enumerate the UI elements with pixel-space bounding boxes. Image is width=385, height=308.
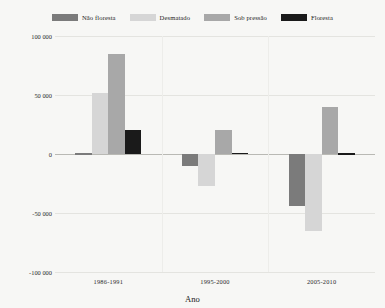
bar <box>305 154 322 231</box>
bar <box>92 93 109 154</box>
bar <box>289 154 306 206</box>
legend-item-1[interactable]: Não floresta <box>52 14 116 21</box>
bar <box>182 154 199 166</box>
bar <box>108 54 125 154</box>
bar <box>125 130 142 154</box>
gridline <box>55 36 375 37</box>
bar <box>215 130 232 154</box>
legend-item-4[interactable]: Floresta <box>281 14 333 21</box>
legend-label: Sob pressão <box>234 14 267 21</box>
y-axis-tick-label: -100 000 <box>0 269 52 276</box>
legend-label: Floresta <box>311 14 333 21</box>
legend-swatch-icon <box>281 14 307 21</box>
gridline <box>55 213 375 214</box>
legend-swatch-icon <box>204 14 230 21</box>
bar <box>232 153 249 154</box>
legend-item-3[interactable]: Sob pressão <box>204 14 267 21</box>
bar <box>75 153 92 154</box>
legend-label: Não floresta <box>82 14 116 21</box>
zero-line <box>55 154 375 155</box>
y-axis-tick-label: 0 <box>0 151 52 158</box>
bar <box>198 154 215 186</box>
bar <box>338 153 355 154</box>
x-axis-title: Ano <box>0 294 385 304</box>
gridline <box>55 272 375 273</box>
legend-item-2[interactable]: Desmatado <box>130 14 191 21</box>
chart-legend: Não florestaDesmatadoSob pressãoFloresta <box>0 14 385 21</box>
legend-label: Desmatado <box>160 14 191 21</box>
legend-swatch-icon <box>52 14 78 21</box>
vertical-gridline <box>268 36 269 272</box>
x-axis-tick-label: 2005-2010 <box>307 278 337 285</box>
bar <box>322 107 339 154</box>
x-axis-tick-label: 1995-2000 <box>200 278 230 285</box>
y-axis-tick-label: 50 000 <box>0 92 52 99</box>
vertical-gridline <box>162 36 163 272</box>
y-axis-tick-label: 100 000 <box>0 33 52 40</box>
plot-area <box>55 36 375 272</box>
x-axis-tick-label: 1986-1991 <box>94 278 124 285</box>
migration-bar-chart: Não florestaDesmatadoSob pressãoFloresta… <box>0 0 385 308</box>
y-axis-tick-label: -50 000 <box>0 210 52 217</box>
legend-swatch-icon <box>130 14 156 21</box>
